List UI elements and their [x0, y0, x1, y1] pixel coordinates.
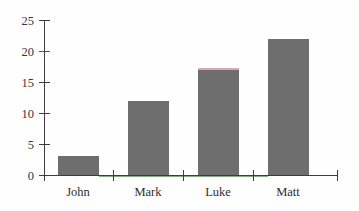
bar-luke-top-edge: [198, 68, 239, 70]
y-tick-label-10: 10: [22, 107, 35, 121]
y-tick-label-20: 20: [22, 45, 35, 59]
y-tick-label-15: 15: [22, 76, 35, 90]
y-tick-label-0: 0: [28, 169, 34, 183]
bar-chart-figure: 0 5 10 15 20 25 John Mark Luke Matt: [0, 0, 359, 211]
category-label-mark: Mark: [134, 185, 162, 199]
y-tick-label-25: 25: [22, 14, 35, 28]
category-label-john: John: [66, 185, 90, 199]
bar-matt[interactable]: [268, 39, 309, 175]
category-label-luke: Luke: [205, 185, 231, 199]
y-tick-label-5: 5: [28, 138, 34, 152]
chart-canvas: 0 5 10 15 20 25 John Mark Luke Matt: [0, 0, 359, 211]
bar-mark[interactable]: [128, 101, 169, 175]
bar-luke[interactable]: [198, 70, 239, 175]
category-label-matt: Matt: [276, 185, 300, 199]
bar-john[interactable]: [58, 156, 99, 175]
